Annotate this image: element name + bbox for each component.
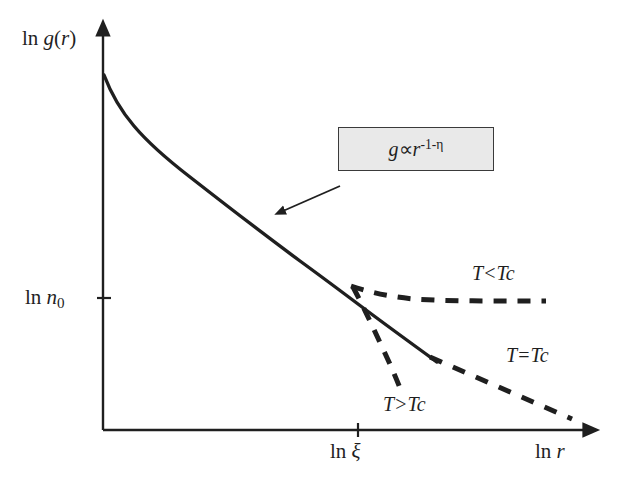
curve-label-t-equals-tc: T=Tc — [506, 345, 549, 365]
x-axis-label-ln: ln — [535, 439, 557, 463]
label-t-lt-T2: Tc — [496, 262, 514, 284]
y-tick-label-n: n — [47, 285, 58, 309]
y-axis-label-g: g — [44, 26, 55, 50]
label-t-eq-T1: T — [506, 344, 517, 366]
x-tick-label-ln-xi: ln ξ — [330, 441, 361, 462]
y-axis-label-ln: ln — [22, 26, 44, 50]
curve-t-equals-tc — [430, 357, 572, 419]
y-tick-label-ln-n0: ln n0 — [25, 287, 65, 311]
annotation-box: g∝r-1-η — [338, 127, 494, 171]
figure-root: ln g(r) ln n0 ln ξ ln r g∝r-1-η T<Tc T=T… — [0, 0, 620, 492]
y-tick-label-subscript: 0 — [57, 295, 65, 311]
annotation-operator-proportional: ∝ — [399, 138, 413, 160]
annotation-symbol-g: g — [389, 138, 399, 160]
annotation-exponent: -1-η — [420, 137, 443, 152]
x-axis-label-r: r — [557, 439, 565, 463]
annotation-arrow — [283, 186, 340, 211]
label-t-gt-T2: Tc — [407, 393, 425, 415]
curve-t-less-than-tc — [351, 286, 546, 301]
label-t-lt-operator: < — [483, 262, 496, 284]
label-t-gt-T1: T — [383, 393, 394, 415]
x-axis-label: ln r — [535, 441, 565, 462]
label-t-eq-operator: = — [517, 344, 530, 366]
label-t-gt-operator: > — [394, 393, 407, 415]
curve-label-t-greater-than-tc: T>Tc — [383, 394, 426, 414]
annotation-formula: g∝r-1-η — [389, 137, 444, 161]
plot-canvas — [0, 0, 620, 492]
curve-label-t-less-than-tc: T<Tc — [472, 263, 515, 283]
y-axis-label: ln g(r) — [22, 28, 76, 49]
curve-critical-power-law — [104, 75, 437, 362]
annotation-exponent-text: -1-η — [420, 137, 443, 152]
label-t-lt-T1: T — [472, 262, 483, 284]
label-t-eq-T2: Tc — [530, 344, 548, 366]
x-tick-label-xi: ξ — [352, 439, 361, 463]
y-tick-label-ln: ln — [25, 285, 47, 309]
curve-t-greater-than-tc — [353, 287, 400, 388]
y-axis-label-paren-close: ) — [69, 26, 76, 50]
x-tick-label-ln: ln — [330, 439, 352, 463]
